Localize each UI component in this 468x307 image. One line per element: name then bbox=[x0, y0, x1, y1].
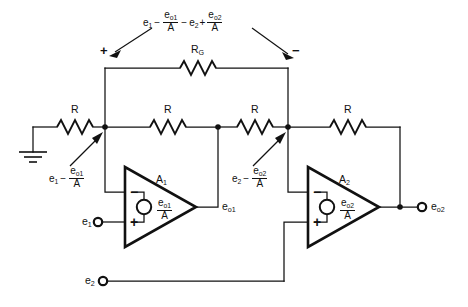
resistor-rg-label: RG bbox=[191, 44, 204, 57]
opamp-a2-internal-source bbox=[320, 200, 334, 214]
terminal-eo2-label: eo2 bbox=[431, 201, 445, 214]
opamp-a2-source-value: eo2A bbox=[339, 198, 356, 221]
arrow-head-top-left bbox=[109, 50, 121, 58]
top-expr-frac-eo2-den: A bbox=[207, 22, 222, 33]
resistor-r1-body bbox=[57, 120, 93, 134]
a2-src-frac: eo2A bbox=[340, 198, 355, 221]
node-left-frac: eo1A bbox=[69, 166, 84, 189]
circuit-diagram: e1−eo1A−e2+eo2A + − RG R R R R e1−eo1A e… bbox=[0, 0, 468, 307]
top-expr-e1: e1 bbox=[143, 17, 152, 28]
node-right-frac: eo2A bbox=[252, 166, 267, 189]
arrow-line-top-right bbox=[252, 28, 288, 54]
junction-dot-a2-output bbox=[397, 204, 403, 210]
a1-src-frac-den: A bbox=[157, 210, 172, 221]
schematic-canvas bbox=[0, 0, 468, 307]
node-annotation-left-expression: e1−eo1A bbox=[49, 166, 85, 189]
node-left-op: − bbox=[60, 173, 66, 184]
resistor-r2-label: R bbox=[164, 104, 172, 115]
opamp-a1-designator: A1 bbox=[156, 174, 167, 187]
resistor-r4-body bbox=[330, 120, 366, 134]
top-expr-e2: e2 bbox=[189, 17, 198, 28]
opamp-a1-inverting-sign: − bbox=[130, 185, 138, 199]
wire-e2-to-a2-noninverting bbox=[284, 222, 308, 281]
node-right-main: e2 bbox=[232, 173, 241, 184]
resistor-r4-label: R bbox=[344, 104, 352, 115]
top-annotation-expression: e1−eo1A−e2+eo2A bbox=[143, 10, 223, 33]
top-expr-plus: + bbox=[200, 17, 206, 28]
a2-src-frac-num: eo2 bbox=[340, 198, 355, 210]
node-right-frac-num: eo2 bbox=[252, 166, 267, 178]
opamp-a1-source-value: eo1A bbox=[156, 198, 173, 221]
wire-a1-output-to-nodeC bbox=[196, 127, 218, 207]
node-right-frac-den: A bbox=[252, 178, 267, 189]
node-right-op: − bbox=[243, 173, 249, 184]
wire-nodeB-to-a2-inverting bbox=[288, 127, 308, 192]
top-expr-minus-2: − bbox=[181, 17, 187, 28]
opamp-a2-inverting-sign: − bbox=[313, 185, 321, 199]
opamp-a1-noninverting-sign: + bbox=[130, 215, 138, 229]
node-left-frac-num: eo1 bbox=[69, 166, 84, 178]
top-expr-frac-eo1-num: eo1 bbox=[163, 10, 178, 22]
opamp-a1-internal-source bbox=[137, 200, 151, 214]
top-expr-frac-eo1-den: A bbox=[163, 22, 178, 33]
resistor-r3-label: R bbox=[251, 104, 259, 115]
arrow-line-node-left bbox=[70, 137, 99, 166]
terminal-e1-label: e1 bbox=[82, 216, 92, 229]
top-expr-frac-eo2-num: eo2 bbox=[207, 10, 222, 22]
polarity-plus-label: + bbox=[100, 44, 108, 57]
a1-src-frac: eo1A bbox=[157, 198, 172, 221]
top-expr-frac-eo1: eo1A bbox=[163, 10, 178, 33]
top-expr-minus-1: − bbox=[154, 17, 160, 28]
a2-src-frac-den: A bbox=[340, 210, 355, 221]
node-annotation-right-expression: e2−eo2A bbox=[232, 166, 268, 189]
wire-nodeA-to-a1-inverting bbox=[105, 127, 125, 192]
top-expr-frac-eo2: eo2A bbox=[207, 10, 222, 33]
resistor-r3-body bbox=[237, 120, 273, 134]
resistor-r2-body bbox=[150, 120, 186, 134]
terminal-e2-label: e2 bbox=[85, 275, 95, 288]
terminal-e2-circle[interactable] bbox=[99, 277, 107, 285]
terminal-eo2-circle[interactable] bbox=[418, 203, 426, 211]
polarity-minus-label: − bbox=[292, 44, 300, 57]
opamp-a1-output-label: eo1 bbox=[222, 201, 236, 214]
resistor-rg-body bbox=[180, 61, 216, 75]
a1-src-frac-num: eo1 bbox=[157, 198, 172, 210]
arrow-line-node-right bbox=[253, 137, 282, 166]
node-left-main: e1 bbox=[49, 173, 58, 184]
resistor-r1-label: R bbox=[71, 104, 79, 115]
terminal-e1-circle[interactable] bbox=[94, 218, 102, 226]
opamp-a2-designator: A2 bbox=[339, 174, 350, 187]
opamp-a2-noninverting-sign: + bbox=[313, 215, 321, 229]
node-left-frac-den: A bbox=[69, 178, 84, 189]
